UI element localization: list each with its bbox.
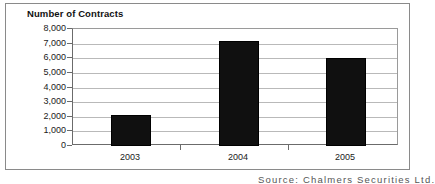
x-tick-label-2003: 2003	[120, 152, 140, 162]
y-tick-mark	[67, 145, 72, 146]
y-tick-label: 3,000	[6, 96, 66, 106]
bar-2005[interactable]	[326, 58, 366, 146]
y-tick-label: 0	[6, 140, 66, 150]
y-tick-label: 5,000	[6, 67, 66, 77]
x-tick-mark	[180, 145, 181, 150]
plot-area	[72, 28, 398, 145]
x-tick-mark	[288, 145, 289, 150]
y-tick-label: 7,000	[6, 38, 66, 48]
chart-title: Number of Contracts	[27, 8, 123, 19]
y-tick-label: 4,000	[6, 82, 66, 92]
y-tick-label: 1,000	[6, 125, 66, 135]
y-tick-label: 2,000	[6, 111, 66, 121]
bar-2004[interactable]	[219, 41, 259, 146]
x-tick-label-2004: 2004	[228, 152, 248, 162]
y-tick-label: 8,000	[6, 23, 66, 33]
bar-2003[interactable]	[111, 115, 151, 146]
source-note: Source: Chalmers Securities Ltd.	[258, 174, 435, 184]
y-tick-label: 6,000	[6, 52, 66, 62]
x-tick-label-2005: 2005	[335, 152, 355, 162]
